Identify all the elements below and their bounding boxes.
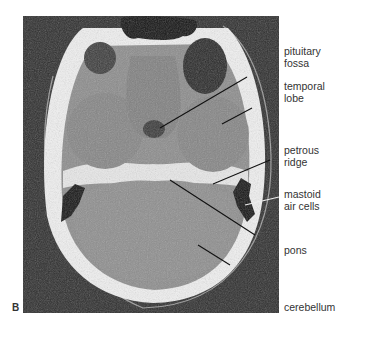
label-pituitary-fossa: pituitary fossa <box>284 46 321 69</box>
ct-figure: B pituitary fossa temporal lobe petrous … <box>0 0 365 338</box>
label-pons: pons <box>284 245 307 257</box>
label-petrous-ridge: petrous ridge <box>284 145 319 168</box>
panel-letter: B <box>12 302 19 313</box>
label-temporal-lobe: temporal lobe <box>284 81 325 104</box>
label-mastoid-air-cells: mastoid air cells <box>284 189 321 212</box>
ct-scan-image <box>23 16 279 313</box>
label-cerebellum: cerebellum <box>284 302 335 314</box>
